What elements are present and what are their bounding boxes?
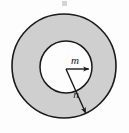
- radius-label-m: m: [71, 54, 79, 66]
- scan-artifact-speck: [62, 1, 67, 6]
- annulus-diagram-canvas: m n: [0, 0, 129, 133]
- annulus-figure: m n: [0, 0, 129, 133]
- radius-label-n: n: [73, 88, 79, 100]
- inner-circle: [40, 41, 92, 93]
